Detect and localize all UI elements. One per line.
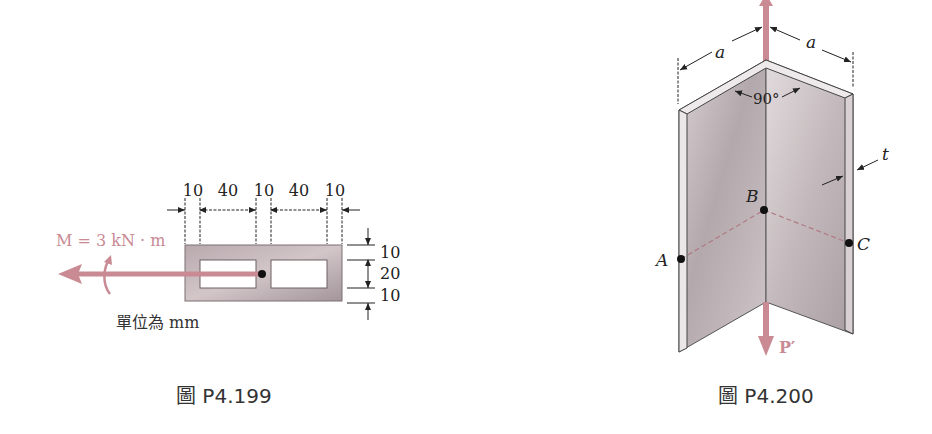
force-p-prime-head [758,336,774,356]
centroid-dot [258,270,266,278]
point-b-dot [760,206,768,214]
force-p-head [759,0,773,6]
figure-p4-199: M = 3 kN · m 10 40 10 40 10 10 20 10 單位為… [0,0,466,434]
figure-p4-200: a a 90° t A B C P′ [466,0,932,434]
force-p-prime-shaft [763,302,769,338]
caption-p4-200: 圖 P4.200 [718,380,814,409]
force-p-prime-label: P′ [779,338,795,357]
point-c-dot [845,239,853,247]
dim-h-5: 10 [325,181,345,200]
thickness-label: t [882,144,889,164]
force-p-shaft [763,0,769,62]
angle-label: 90° [753,90,780,108]
moment-label: M = 3 kN · m [56,231,165,250]
point-a-dot [677,255,685,263]
units-label: 單位為 mm [116,313,199,332]
dim-a-left: a [715,42,725,62]
dim-h-1: 10 [183,181,203,200]
dim-h-4: 40 [289,181,309,200]
point-b-label: B [745,186,759,206]
dim-v-1: 10 [380,243,400,262]
dim-a-right: a [806,32,816,52]
caption-p4-199: 圖 P4.199 [176,380,272,409]
dim-v-3: 10 [380,286,400,305]
dim-h-2: 40 [218,181,238,200]
dim-v-2: 20 [380,264,400,283]
right-cell [271,260,327,288]
point-c-label: C [857,234,870,254]
point-a-label: A [654,250,668,270]
dim-h-3: 10 [254,181,274,200]
